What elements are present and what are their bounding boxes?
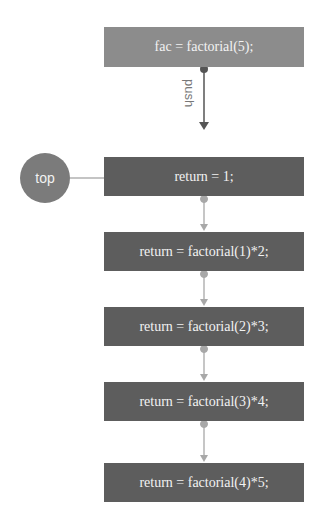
push-arrow-head-icon <box>199 122 209 130</box>
stack-frame-3: return = factorial(2)*3; <box>104 307 304 346</box>
stack-frame-4: return = factorial(3)*4; <box>104 382 304 421</box>
top-pointer-node: top <box>20 153 70 203</box>
stack-frame-2: return = factorial(1)*2; <box>104 232 304 271</box>
call-statement-node: fac = factorial(5); <box>104 27 304 67</box>
stack-frame-5: return = factorial(4)*5; <box>104 463 304 502</box>
stack-frame-1: return = 1; <box>104 157 304 196</box>
push-label: push <box>183 78 196 108</box>
